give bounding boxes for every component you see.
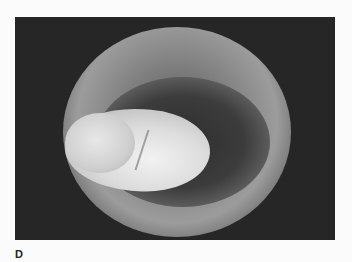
mass-lobe: [65, 113, 135, 173]
endoscopic-image: [15, 17, 335, 240]
panel-label: D: [15, 248, 23, 260]
